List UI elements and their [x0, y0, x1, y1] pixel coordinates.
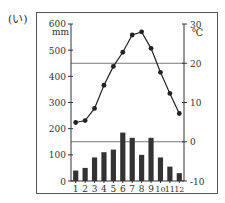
x-tick-label: 6 — [120, 184, 126, 194]
left-tick-label: 500 — [49, 46, 66, 56]
temperature-point — [111, 64, 116, 69]
temperature-point — [167, 91, 172, 96]
precipitation-bar — [92, 157, 97, 181]
precipitation-bar — [130, 138, 135, 181]
temperature-point — [92, 106, 97, 111]
right-tick-label: 10 — [190, 98, 202, 108]
precipitation-bar — [111, 150, 116, 181]
temperature-point — [83, 118, 88, 123]
precipitation-bar — [158, 157, 163, 181]
left-tick-label: 100 — [49, 150, 66, 160]
temperature-point — [120, 50, 125, 55]
right-tick-label: 0 — [190, 137, 196, 147]
left-axis-unit: mm — [52, 27, 70, 37]
climate-chart: 0100200300400500600mm-100102030℃12345678… — [0, 0, 225, 203]
x-tick-label: 1 — [73, 184, 79, 194]
temperature-point — [139, 29, 144, 34]
left-tick-label: 300 — [49, 98, 66, 108]
left-tick-label: 400 — [49, 72, 66, 82]
right-tick-label: -10 — [190, 177, 205, 187]
x-tick-label: 8 — [139, 184, 145, 194]
x-tick-label: 2 — [82, 184, 88, 194]
x-tick-label: 3 — [92, 184, 98, 194]
precipitation-bar — [139, 155, 144, 181]
temperature-line — [76, 32, 180, 123]
temperature-point — [130, 33, 135, 38]
temperature-point — [149, 46, 154, 51]
right-tick-label: 20 — [190, 59, 202, 69]
right-axis-unit: ℃ — [192, 27, 203, 38]
precipitation-bar — [177, 173, 182, 181]
precipitation-bar — [120, 133, 125, 181]
x-tick-label: 9 — [148, 184, 154, 194]
x-tick-label: 5 — [111, 184, 117, 194]
left-tick-label: 0 — [60, 177, 66, 187]
temperature-point — [73, 120, 78, 125]
left-tick-label: 200 — [49, 124, 66, 134]
temperature-point — [158, 70, 163, 75]
precipitation-bar — [83, 168, 88, 181]
x-tick-label: 7 — [129, 184, 135, 194]
x-tick-label: 4 — [101, 184, 107, 194]
temperature-point — [102, 83, 107, 88]
precipitation-bar — [101, 152, 106, 181]
temperature-point — [177, 111, 182, 116]
x-tick-label: 12 — [174, 185, 184, 194]
precipitation-bar — [167, 167, 172, 181]
precipitation-bar — [148, 138, 153, 181]
precipitation-bar — [73, 171, 78, 181]
